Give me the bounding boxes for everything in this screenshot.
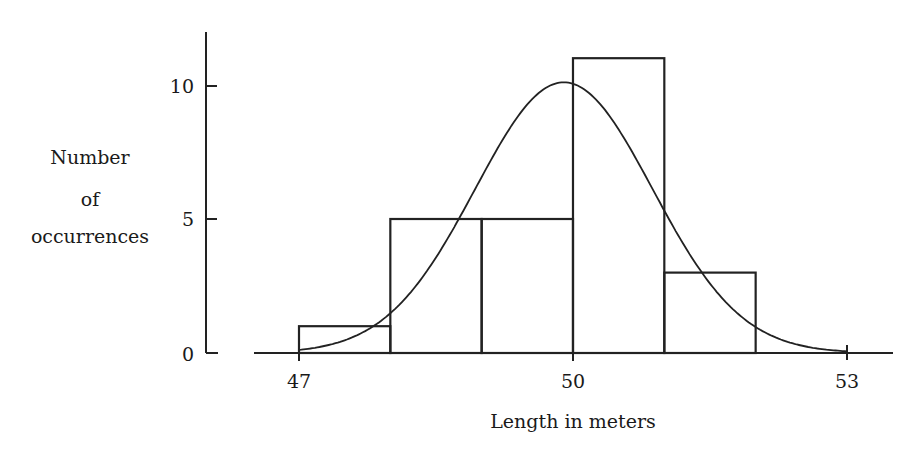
histogram-chart: Number of occurrences 10 5 0 47 50 53 Le…	[0, 0, 920, 449]
x-axis: 47 50 53 Length in meters	[254, 345, 893, 432]
x-tick-label-50: 50	[561, 370, 585, 392]
x-tick-label-47: 47	[287, 370, 311, 392]
y-tick-label-10: 10	[170, 75, 194, 97]
histogram-bar	[573, 58, 664, 353]
y-axis-title-line-1: Number	[50, 146, 130, 168]
y-axis-title-line-3: occurrences	[31, 225, 149, 247]
histogram-bars	[299, 58, 756, 353]
y-axis-title-line-2: of	[81, 188, 101, 210]
y-axis-title: Number of occurrences	[31, 146, 149, 247]
histogram-bar	[482, 219, 573, 353]
y-axis: 10 5 0	[170, 32, 218, 365]
histogram-bar	[390, 219, 481, 353]
x-tick-label-53: 53	[835, 370, 859, 392]
x-axis-title: Length in meters	[490, 410, 656, 432]
y-tick-label-0: 0	[182, 343, 194, 365]
y-tick-label-5: 5	[182, 208, 194, 230]
